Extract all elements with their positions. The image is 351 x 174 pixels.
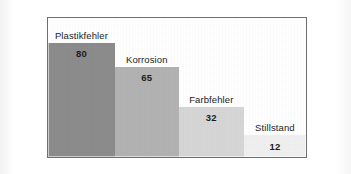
bar-group-3: Farbfehler 32 [179, 107, 244, 157]
bar-series-container: Plastikfehler 80 Korrosion 65 Farbfehler… [48, 18, 306, 157]
bar-label-1: Plastikfehler [48, 30, 115, 41]
bar-value-1: 80 [48, 48, 115, 59]
bar-rect-1[interactable] [48, 43, 115, 157]
bar-label-4: Stillstand [244, 122, 306, 133]
bar-group-1: Plastikfehler 80 [48, 43, 115, 157]
bar-value-2: 65 [115, 72, 179, 83]
bar-chart-figure: Plastikfehler 80 Korrosion 65 Farbfehler… [0, 0, 351, 174]
chart-plot-frame: Plastikfehler 80 Korrosion 65 Farbfehler… [47, 17, 307, 158]
bar-label-2: Korrosion [115, 54, 179, 65]
bar-label-3: Farbfehler [179, 94, 244, 105]
bar-value-3: 32 [179, 112, 244, 123]
bar-group-4: Stillstand 12 [244, 135, 306, 157]
bar-value-4: 12 [244, 141, 306, 152]
bar-group-2: Korrosion 65 [115, 67, 179, 157]
